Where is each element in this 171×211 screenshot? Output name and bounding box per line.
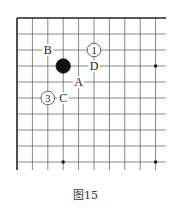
star-point xyxy=(154,64,157,67)
board-grid xyxy=(17,18,166,170)
star-point xyxy=(62,160,65,163)
letter-mark-c: C xyxy=(59,91,67,105)
letter-mark-b: B xyxy=(44,43,52,57)
move-number: 3 xyxy=(45,93,50,104)
figure-caption: 图15 xyxy=(0,186,171,202)
letter-mark-d: D xyxy=(90,59,99,73)
black-stone xyxy=(56,59,70,73)
go-board: 13 BDAC xyxy=(0,0,171,180)
letter-mark-a: A xyxy=(74,75,83,89)
move-number: 1 xyxy=(91,45,96,56)
star-point xyxy=(154,160,157,163)
